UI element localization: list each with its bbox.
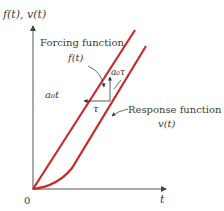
forcing-function-line <box>33 30 135 189</box>
forcing-slope-label: a₀t <box>45 89 60 100</box>
response-function-curve <box>33 46 146 189</box>
origin-label: 0 <box>24 195 30 206</box>
forcing-function-symbol: f(t) <box>67 52 84 63</box>
x-axis-label: t <box>160 193 165 206</box>
ramp-response-diagram: f(t), v(t) t 0 Forcing function f(t) a₀t… <box>0 0 224 211</box>
lag-amplitude-label: a₀τ <box>111 67 126 77</box>
forcing-function-label: Forcing function <box>40 37 124 48</box>
response-leader-line <box>112 109 128 116</box>
response-function-symbol: v(t) <box>158 118 176 129</box>
response-function-label: Response function <box>128 104 222 115</box>
y-axis-label: f(t), v(t) <box>2 8 46 21</box>
lag-time-label: τ <box>93 103 99 114</box>
